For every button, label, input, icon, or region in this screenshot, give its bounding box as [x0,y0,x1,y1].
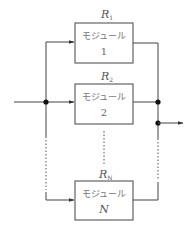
module-1-name: モジュール [82,31,126,41]
module-n-index: N [98,203,109,216]
reliability-label-r2: R2 [100,70,113,83]
parallel-system-diagram: R1 モジュール 1 R2 モジュール 2 RN モジュール N [0,0,190,231]
module-2-name: モジュール [82,92,126,102]
reliability-label-r1: R1 [100,8,113,21]
module-n-name: モジュール [82,189,126,199]
module-1-index: 1 [101,46,107,57]
module-2-index: 2 [101,107,107,118]
module-1: R1 モジュール 1 [75,8,133,63]
module-n: RN モジュール N [75,168,133,220]
module-2: R2 モジュール 2 [75,70,133,124]
output-junction-dot-1 [155,99,160,104]
module-1-box [75,23,133,63]
module-2-box [75,84,133,124]
reliability-label-rn: RN [98,168,113,181]
input-junction-dot [43,99,48,104]
